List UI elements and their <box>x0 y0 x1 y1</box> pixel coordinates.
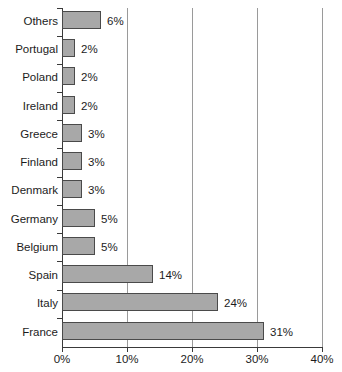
category-label: Others <box>23 15 58 28</box>
gridline-40 <box>322 8 323 347</box>
bar-value-label: 3% <box>88 184 105 197</box>
x-axis-tick <box>127 347 128 352</box>
x-axis-tick <box>62 347 63 352</box>
bar-value-label: 24% <box>224 297 247 310</box>
bar-value-label: 3% <box>88 156 105 169</box>
y-axis-tick <box>57 233 62 234</box>
bar-ireland <box>62 96 75 114</box>
x-axis-label: 0% <box>42 353 82 365</box>
bar-others <box>62 11 101 29</box>
bar-value-label: 5% <box>101 213 118 226</box>
x-axis-label: 40% <box>302 353 342 365</box>
x-axis-tick <box>322 347 323 352</box>
bar-value-label: 31% <box>270 326 293 339</box>
y-axis-tick <box>57 36 62 37</box>
bar-value-label: 2% <box>81 100 98 113</box>
bar-chart: Others Portugal Poland Ireland Greece Fi… <box>0 0 342 372</box>
y-axis-tick <box>57 148 62 149</box>
y-axis-tick <box>57 120 62 121</box>
category-label: Finland <box>20 156 58 169</box>
bar-belgium <box>62 237 95 255</box>
category-label: France <box>22 326 58 339</box>
y-axis-tick <box>57 290 62 291</box>
gridline-30 <box>257 8 258 347</box>
bar-value-label: 2% <box>81 43 98 56</box>
bar-germany <box>62 209 95 227</box>
category-label: Belgium <box>16 241 58 254</box>
category-label: Italy <box>37 297 58 310</box>
category-label: Greece <box>20 128 58 141</box>
bar-value-label: 5% <box>101 241 118 254</box>
category-label: Ireland <box>23 100 58 113</box>
x-axis-label: 10% <box>107 353 147 365</box>
y-axis-tick <box>57 205 62 206</box>
bar-france <box>62 322 264 340</box>
category-label: Germany <box>11 213 58 226</box>
x-axis-tick <box>257 347 258 352</box>
bar-value-label: 2% <box>81 71 98 84</box>
y-axis-tick <box>57 177 62 178</box>
y-axis-tick <box>57 318 62 319</box>
bar-spain <box>62 265 153 283</box>
bar-value-label: 3% <box>88 128 105 141</box>
bar-portugal <box>62 39 75 57</box>
x-axis-tick <box>192 347 193 352</box>
x-axis-label: 30% <box>237 353 277 365</box>
y-axis-tick <box>57 261 62 262</box>
x-axis-label: 20% <box>172 353 212 365</box>
category-label: Denmark <box>11 184 58 197</box>
bar-italy <box>62 293 218 311</box>
bar-denmark <box>62 180 82 198</box>
bar-value-label: 6% <box>107 15 124 28</box>
bar-greece <box>62 124 82 142</box>
bar-finland <box>62 152 82 170</box>
y-axis-tick <box>57 92 62 93</box>
bar-poland <box>62 67 75 85</box>
y-axis-tick <box>57 64 62 65</box>
y-axis-tick <box>57 8 62 9</box>
bar-value-label: 14% <box>159 269 182 282</box>
category-label: Spain <box>29 269 58 282</box>
category-label: Portugal <box>15 43 58 56</box>
category-label: Poland <box>22 71 58 84</box>
